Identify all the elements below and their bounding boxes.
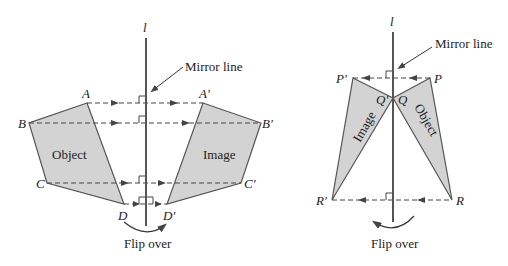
point-q: Q <box>398 92 408 107</box>
reflection-diagram: l Mirror line A B C D A′ B′ C′ D′ Object… <box>0 0 508 266</box>
point-b: B <box>18 116 26 131</box>
flip-arrow-icon <box>124 222 165 232</box>
point-d: D <box>117 208 128 223</box>
left-diagram: l Mirror line A B C D A′ B′ C′ D′ Object… <box>18 20 273 251</box>
right-angle-markers <box>386 71 393 200</box>
mirror-line-caption: Mirror line <box>435 36 493 51</box>
mirror-line-label: l <box>390 14 394 29</box>
point-d-prime: D′ <box>162 208 175 223</box>
point-b-prime: B′ <box>262 116 273 131</box>
point-c-prime: C′ <box>244 176 256 191</box>
point-p-prime: P′ <box>335 71 347 86</box>
mirror-line-caption: Mirror line <box>185 59 243 74</box>
point-r: R <box>455 193 464 208</box>
mirror-line-label: l <box>143 20 147 35</box>
point-a-prime: A′ <box>198 86 210 101</box>
mirror-caption-arrow <box>152 67 183 91</box>
object-label: Object <box>52 147 87 162</box>
mirror-caption-arrow <box>399 47 432 68</box>
point-c: C <box>36 176 45 191</box>
point-q-prime: Q′ <box>376 92 388 107</box>
flip-over-caption: Flip over <box>124 236 172 251</box>
point-p: P <box>433 71 442 86</box>
image-label: Image <box>203 147 236 162</box>
right-diagram: l Mirror line P P′ Q Q′ R R′ Object Imag… <box>315 14 493 251</box>
flip-over-caption: Flip over <box>371 236 419 251</box>
point-a: A <box>81 86 90 101</box>
point-r-prime: R′ <box>315 193 327 208</box>
